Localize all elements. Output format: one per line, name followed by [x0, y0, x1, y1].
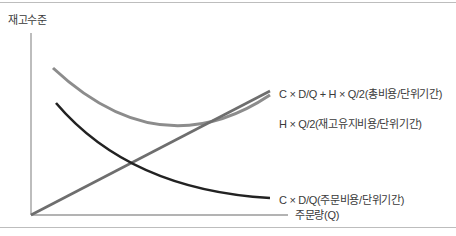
holding-cost-label: H × Q/2(재고유지비용/단위기간) [279, 115, 422, 131]
total-cost-curve [53, 68, 270, 126]
ordering-cost-curve [56, 103, 270, 198]
x-axis-label: 주문량(Q) [295, 206, 339, 222]
ordering-cost-label: C × D/Q(주문비용/단위기간) [279, 191, 404, 207]
holding-cost-line [31, 91, 270, 215]
y-axis-label: 재고수준 [8, 11, 47, 27]
total-cost-label: C × D/Q + H × Q/2(총비용/단위기간) [279, 85, 442, 101]
